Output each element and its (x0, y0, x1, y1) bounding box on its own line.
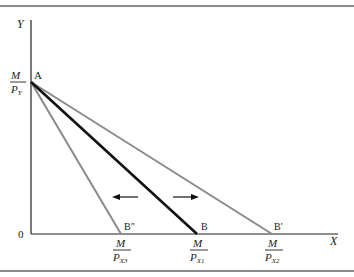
point-a-label: A (34, 69, 42, 81)
budget-line-b-prime (31, 82, 272, 234)
point-b-prime-label: B' (274, 221, 283, 232)
x-intercept-fraction-x2: M PX2 (264, 237, 283, 265)
budget-line-diagram: Y X 0 M PY A B" B B' M PX3 M PX1 M PX2 (0, 0, 354, 277)
x1-denominator: PX1 (189, 251, 205, 265)
y-intercept-fraction: M PY (10, 69, 26, 97)
point-b-double-prime-label: B" (124, 221, 135, 232)
budget-line-b-double-prime (31, 82, 121, 234)
budget-line-b (31, 82, 197, 234)
arrow-left-icon (112, 194, 138, 200)
x-intercept-fraction-x3: M PX3 (112, 237, 131, 265)
origin-label: 0 (18, 228, 24, 240)
y-intercept-denominator: PY (10, 83, 23, 97)
point-b-label: B (201, 221, 208, 232)
x1-numerator: M (192, 237, 203, 249)
diagram-frame: Y X 0 M PY A B" B B' M PX3 M PX1 M PX2 (0, 0, 354, 277)
x-axis-label: X (329, 234, 338, 248)
y-axis-label: Y (17, 17, 25, 31)
x2-denominator: PX2 (264, 251, 280, 265)
x2-numerator: M (267, 237, 278, 249)
x-intercept-fraction-x1: M PX1 (189, 237, 208, 265)
x3-denominator: PX3 (112, 251, 128, 265)
arrow-right-icon (173, 194, 199, 200)
y-intercept-numerator: M (10, 69, 21, 81)
x3-numerator: M (115, 237, 126, 249)
